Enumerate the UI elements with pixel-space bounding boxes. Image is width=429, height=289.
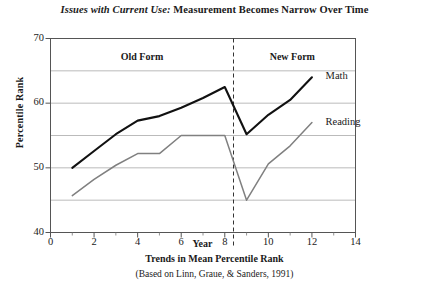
x-tick-label: 4 xyxy=(126,236,150,247)
annotation-old-form: Old Form xyxy=(112,51,172,62)
caption-line-1: Trends in Mean Percentile Rank xyxy=(0,253,429,264)
x-tick-label: 0 xyxy=(39,236,63,247)
y-tick-label: 70 xyxy=(18,33,44,43)
series-label-math: Math xyxy=(326,70,348,81)
x-tick-label: 10 xyxy=(256,236,280,247)
y-tick-label: 40 xyxy=(18,227,44,237)
y-tick-label: 60 xyxy=(18,97,44,107)
series-line-reading xyxy=(72,123,312,201)
x-tick-label: 2 xyxy=(82,236,106,247)
series-line-math xyxy=(72,77,312,168)
caption-line-2: (Based on Linn, Graue, & Sanders, 1991) xyxy=(0,269,429,279)
y-tick-label: 50 xyxy=(18,162,44,172)
x-tick-label: 12 xyxy=(300,236,324,247)
x-tick-label: 14 xyxy=(344,236,368,247)
chart-figure: Issues with Current Use: Measurement Bec… xyxy=(0,0,429,289)
annotation-new-form: New Form xyxy=(262,51,322,62)
series-label-reading: Reading xyxy=(326,116,361,127)
x-tick-label: 6 xyxy=(169,236,193,247)
x-tick-label: 8 xyxy=(213,236,237,247)
